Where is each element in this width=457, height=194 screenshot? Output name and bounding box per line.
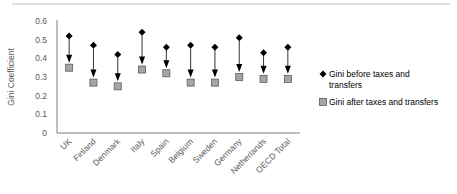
after-marker-square-icon: [211, 79, 218, 86]
square-icon: [320, 99, 327, 106]
gini-chart: Gini Coefficient 00.10.20.30.40.50.6 UKF…: [0, 0, 457, 194]
before-marker-diamond-icon: [139, 29, 146, 36]
legend-item-after: Gini after taxes and transfers: [320, 97, 439, 107]
before-marker-diamond-icon: [260, 49, 267, 56]
arrow-head-icon: [163, 60, 169, 68]
legend-label-before-line2: transfers: [329, 80, 362, 90]
arrow-head-icon: [188, 70, 194, 78]
arrow-head-icon: [139, 57, 145, 65]
x-tick-label: Italy: [128, 136, 147, 155]
before-marker-diamond-icon: [114, 51, 121, 58]
after-marker-square-icon: [139, 66, 146, 73]
y-axis-label: Gini Coefficient: [6, 48, 16, 106]
arrow-head-icon: [236, 64, 242, 72]
before-marker-diamond-icon: [236, 34, 243, 41]
arrow-head-icon: [261, 66, 267, 74]
after-marker-square-icon: [163, 70, 170, 77]
arrow-head-icon: [212, 70, 218, 78]
svg-text:Gini Coefficient: Gini Coefficient: [6, 48, 16, 106]
legend: Gini before taxes and transfers Gini aft…: [320, 69, 439, 107]
arrow-head-icon: [90, 70, 96, 78]
y-tick-label: 0.2: [35, 91, 47, 101]
after-markers: [66, 64, 292, 90]
after-marker-square-icon: [114, 83, 121, 90]
x-axis-labels: UKFinlandDenmarkItalySpainBelgiumSwedenG…: [58, 136, 292, 176]
legend-label-after: Gini after taxes and transfers: [329, 97, 438, 107]
y-tick-label: 0.4: [35, 53, 47, 63]
after-marker-square-icon: [284, 75, 291, 82]
before-marker-diamond-icon: [163, 44, 170, 51]
x-tick-label: UK: [58, 136, 74, 152]
before-marker-diamond-icon: [211, 44, 218, 51]
after-marker-square-icon: [236, 74, 243, 81]
before-marker-diamond-icon: [90, 42, 97, 49]
before-marker-diamond-icon: [284, 44, 291, 51]
before-marker-diamond-icon: [66, 32, 73, 39]
after-marker-square-icon: [66, 64, 73, 71]
x-tick-label: Belgium: [166, 136, 195, 165]
arrow-head-icon: [115, 73, 121, 81]
arrow-head-icon: [66, 55, 72, 63]
arrows: [66, 35, 291, 81]
before-marker-diamond-icon: [187, 42, 194, 49]
arrow-head-icon: [285, 66, 291, 74]
diamond-icon: [320, 71, 327, 78]
legend-label-before-line1: Gini before taxes and: [329, 69, 410, 79]
y-tick-label: 0.6: [35, 16, 47, 26]
y-tick-label: 0.1: [35, 109, 47, 119]
y-axis-ticks: 00.10.20.30.40.50.6: [35, 16, 47, 138]
after-marker-square-icon: [90, 79, 97, 86]
y-tick-label: 0: [42, 128, 47, 138]
after-marker-square-icon: [260, 75, 267, 82]
after-marker-square-icon: [187, 79, 194, 86]
y-tick-label: 0.3: [35, 72, 47, 82]
y-tick-label: 0.5: [35, 35, 47, 45]
before-markers: [66, 29, 292, 58]
legend-item-before: Gini before taxes and transfers: [320, 69, 411, 90]
x-tick-label: Denmark: [91, 136, 123, 168]
